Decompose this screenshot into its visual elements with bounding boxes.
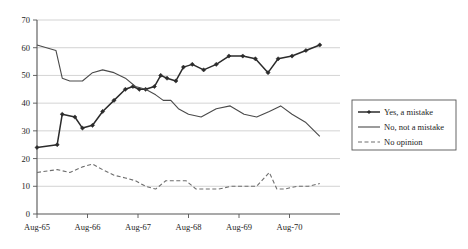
x-axis-tick-label: Aug-69 [226, 222, 252, 232]
legend-label-2: No opinion [384, 137, 423, 147]
data-point-marker [304, 48, 308, 52]
x-axis-tick-label: Aug-65 [24, 222, 50, 232]
data-point-marker [165, 76, 169, 80]
y-axis-tick-label: 50 [22, 70, 31, 80]
data-point-marker [290, 54, 294, 58]
x-axis-tick-label: Aug-67 [125, 222, 151, 232]
y-axis-tick-label: 30 [22, 126, 31, 136]
data-point-marker [318, 43, 322, 47]
x-axis-tick-label: Aug-66 [75, 222, 101, 232]
data-point-marker [241, 54, 245, 58]
series-line-2 [37, 164, 320, 189]
x-axis-tick-label: Aug-68 [176, 222, 202, 232]
data-point-marker [55, 143, 59, 147]
y-axis-tick-label: 60 [22, 43, 31, 53]
data-point-marker [60, 112, 64, 116]
y-axis-tick-label: 20 [22, 154, 31, 164]
y-axis-tick-label: 10 [22, 181, 31, 191]
x-axis-tick-label: Aug-70 [277, 222, 303, 232]
legend-label-0: Yes, a mistake [384, 107, 433, 117]
y-axis-tick-label: 0 [26, 209, 30, 219]
legend-label-1: No, not a mistake [384, 122, 444, 132]
chart-canvas: 010203040506070Aug-65Aug-66Aug-67Aug-68A… [0, 0, 468, 249]
data-point-marker [35, 145, 39, 149]
line-chart: 010203040506070Aug-65Aug-66Aug-67Aug-68A… [0, 0, 468, 249]
y-axis-tick-label: 40 [22, 98, 31, 108]
y-axis-tick-label: 70 [22, 15, 31, 25]
